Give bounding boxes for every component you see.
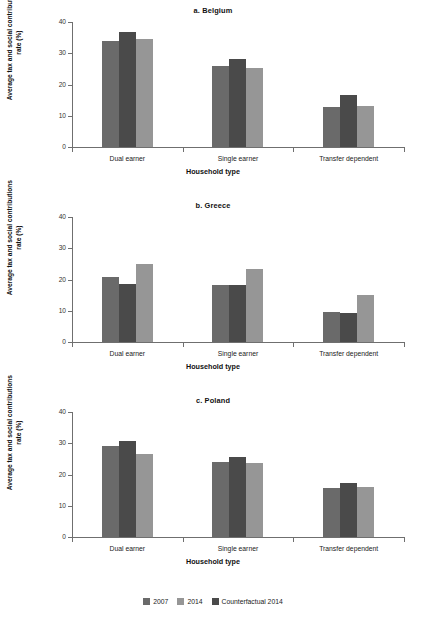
bar-group-bars [183, 217, 294, 342]
legend-swatch-icon [143, 598, 150, 605]
y-axis-tick-label: 40 [26, 408, 66, 415]
x-axis-label: Household type [0, 167, 426, 176]
y-axis-tick-label: 10 [26, 307, 66, 314]
y-axis-tick-label: 30 [26, 439, 66, 446]
panel-title: b. Greece [0, 201, 426, 210]
panel-title: a. Belgium [0, 6, 426, 15]
plot-area: 010203040Dual earnerSingle earnerTransfe… [72, 22, 404, 147]
legend-label: Counterfactual 2014 [222, 598, 283, 605]
bar-group: Dual earner [72, 217, 183, 342]
x-axis-tick [183, 342, 184, 347]
x-axis-tick [293, 342, 294, 347]
bar-group: Single earner [183, 22, 294, 147]
bar [102, 41, 119, 147]
x-axis-line [72, 537, 404, 538]
x-axis-tick [72, 342, 73, 347]
bar [229, 457, 246, 537]
bar [357, 106, 374, 147]
x-axis-tick [404, 342, 405, 347]
plot-area: 010203040Dual earnerSingle earnerTransfe… [72, 217, 404, 342]
figure-bar-chart-panels: a. BelgiumAverage tax and social contrib… [0, 0, 426, 633]
x-axis-tick [293, 147, 294, 152]
y-axis-label: Average tax and social contributions rat… [6, 374, 23, 492]
y-axis-tick-label: 0 [26, 533, 66, 540]
bar [102, 446, 119, 537]
bar-group-bars [183, 22, 294, 147]
bar [340, 483, 357, 537]
chart-panel-greece: b. GreeceAverage tax and social contribu… [0, 195, 426, 388]
x-axis-tick [183, 537, 184, 542]
bar [212, 66, 229, 147]
x-axis-line [72, 147, 404, 148]
x-axis-category-label: Transfer dependent [279, 155, 419, 162]
y-axis-tick-label: 0 [26, 143, 66, 150]
x-axis-category-label: Transfer dependent [279, 350, 419, 357]
bar [212, 285, 229, 343]
bar [357, 487, 374, 537]
x-axis-label: Household type [0, 362, 426, 371]
bar-group: Transfer dependent [293, 22, 404, 147]
bar-group: Dual earner [72, 412, 183, 537]
legend-item[interactable]: Counterfactual 2014 [212, 598, 283, 605]
bar [212, 462, 229, 537]
bar [229, 59, 246, 147]
y-axis-tick-label: 10 [26, 112, 66, 119]
bar-group: Dual earner [72, 22, 183, 147]
bar-group: Single earner [183, 412, 294, 537]
legend-item[interactable]: 2007 [143, 598, 168, 605]
x-axis-tick [293, 537, 294, 542]
bar [136, 454, 153, 537]
bar-group-bars [72, 217, 183, 342]
chart-legend: 20072014Counterfactual 2014 [0, 598, 426, 605]
bar-group: Transfer dependent [293, 412, 404, 537]
y-axis-tick-label: 0 [26, 338, 66, 345]
legend-item[interactable]: 2014 [177, 598, 202, 605]
bar [136, 264, 153, 342]
x-axis-category-label: Transfer dependent [279, 545, 419, 552]
x-axis-line [72, 342, 404, 343]
y-axis-tick-label: 30 [26, 244, 66, 251]
y-axis-label: Average tax and social contributions rat… [6, 0, 23, 102]
bar [323, 488, 340, 537]
bar-group: Single earner [183, 217, 294, 342]
y-axis-tick-label: 30 [26, 49, 66, 56]
y-axis-tick-label: 20 [26, 81, 66, 88]
y-axis-label: Average tax and social contributions rat… [6, 179, 23, 297]
legend-label: 2007 [153, 598, 168, 605]
bar [323, 312, 340, 342]
chart-panel-belgium: a. BelgiumAverage tax and social contrib… [0, 0, 426, 193]
y-axis-tick-label: 40 [26, 18, 66, 25]
legend-swatch-icon [177, 598, 184, 605]
legend-label: 2014 [187, 598, 202, 605]
bar-group-bars [72, 412, 183, 537]
bar [340, 313, 357, 342]
bar-group-bars [293, 412, 404, 537]
bar-group-bars [72, 22, 183, 147]
bar [136, 39, 153, 147]
panel-title: c. Poland [0, 396, 426, 405]
bar [119, 32, 136, 147]
y-axis-tick-label: 10 [26, 502, 66, 509]
legend-swatch-icon [212, 598, 219, 605]
bar-group-bars [183, 412, 294, 537]
bar-group-bars [293, 217, 404, 342]
bar [119, 284, 136, 342]
y-axis-tick-label: 20 [26, 471, 66, 478]
y-axis-tick-label: 20 [26, 276, 66, 283]
bar [357, 295, 374, 342]
bar-group-bars [293, 22, 404, 147]
bar-group: Transfer dependent [293, 217, 404, 342]
x-axis-tick [72, 147, 73, 152]
y-axis-tick-label: 40 [26, 213, 66, 220]
x-axis-tick [404, 147, 405, 152]
bar [119, 441, 136, 537]
figure-footnote-cropped [8, 624, 420, 633]
chart-panel-poland: c. PolandAverage tax and social contribu… [0, 390, 426, 583]
bar [102, 277, 119, 342]
x-axis-tick [404, 537, 405, 542]
bar [246, 269, 263, 342]
plot-area: 010203040Dual earnerSingle earnerTransfe… [72, 412, 404, 537]
bar [246, 68, 263, 147]
x-axis-label: Household type [0, 557, 426, 566]
bar [246, 463, 263, 537]
